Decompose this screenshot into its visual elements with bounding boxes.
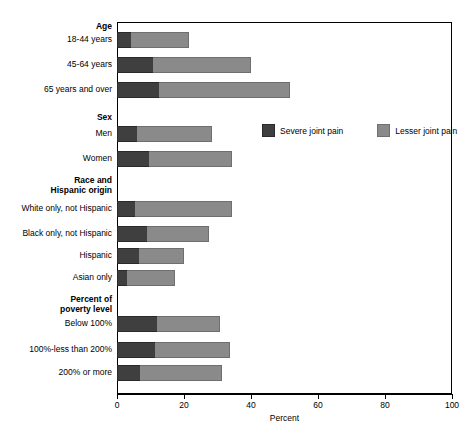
bar-segment-lesser (155, 342, 230, 358)
category-label: Women (0, 154, 112, 164)
x-axis-tick (117, 394, 118, 399)
table-row (117, 270, 175, 286)
legend-item-severe: Severe joint pain (262, 124, 343, 137)
category-label: 45-64 years (0, 60, 112, 70)
category-label: Below 100% (0, 319, 112, 329)
x-axis-tick-label: 20 (169, 400, 199, 410)
bar-segment-severe (117, 248, 139, 264)
category-label: White only, not Hispanic (0, 204, 112, 214)
x-axis-title: Percent (117, 413, 452, 423)
bar-segment-lesser (127, 270, 175, 286)
bar-segment-severe (117, 57, 153, 73)
bar-segment-lesser (159, 82, 290, 98)
x-axis-tick-label: 100 (437, 400, 467, 410)
joint-pain-stacked-bar-chart: Age18-44 years45-64 years65 years and ov… (0, 0, 475, 436)
category-label: Asian only (0, 273, 112, 283)
table-row (117, 201, 232, 217)
category-label: 200% or more (0, 368, 112, 378)
table-row (117, 226, 209, 242)
bar-segment-severe (117, 342, 155, 358)
table-row (117, 82, 290, 98)
category-label: 65 years and over (0, 85, 112, 95)
table-row (117, 316, 220, 332)
category-label: 18-44 years (0, 35, 112, 45)
table-row (117, 342, 230, 358)
bar-segment-severe (117, 365, 140, 381)
bar-segment-severe (117, 32, 131, 48)
chart-legend: Severe joint pain Lesser joint pain (262, 124, 457, 137)
bar-segment-lesser (131, 32, 189, 48)
category-label: Hispanic (0, 251, 112, 261)
bar-segment-severe (117, 151, 149, 167)
x-axis-line (117, 394, 453, 395)
bar-segment-severe (117, 126, 137, 142)
x-axis-tick (452, 394, 453, 399)
table-row (117, 57, 251, 73)
x-axis-tick (251, 394, 252, 399)
group-header-label: Sex (0, 113, 112, 123)
group-header-label: Age (0, 22, 112, 32)
table-row (117, 32, 189, 48)
legend-swatch-lesser-icon (377, 124, 390, 137)
bar-segment-severe (117, 201, 135, 217)
bar-segment-severe (117, 270, 127, 286)
bar-segment-lesser (147, 226, 209, 242)
bar-segment-lesser (149, 151, 232, 167)
x-axis-tick-label: 40 (236, 400, 266, 410)
x-axis-tick-label: 0 (102, 400, 132, 410)
legend-item-lesser: Lesser joint pain (377, 124, 457, 137)
bar-segment-severe (117, 226, 147, 242)
x-axis-tick (184, 394, 185, 399)
legend-label-lesser: Lesser joint pain (395, 126, 457, 136)
category-label: Black only, not Hispanic (0, 229, 112, 239)
x-axis-tick (385, 394, 386, 399)
bar-segment-lesser (135, 201, 232, 217)
x-axis-tick-label: 80 (370, 400, 400, 410)
bar-segment-lesser (153, 57, 251, 73)
bar-segment-lesser (139, 248, 184, 264)
table-row (117, 248, 184, 264)
table-row (117, 151, 232, 167)
bar-segment-severe (117, 316, 157, 332)
table-row (117, 126, 212, 142)
legend-swatch-severe-icon (262, 124, 275, 137)
bar-segment-severe (117, 82, 159, 98)
legend-label-severe: Severe joint pain (280, 126, 343, 136)
category-label: 100%-less than 200% (0, 345, 112, 355)
group-header-label: poverty level (0, 305, 112, 315)
x-axis-tick-label: 60 (303, 400, 333, 410)
table-row (117, 365, 222, 381)
bar-segment-lesser (140, 365, 222, 381)
category-label: Men (0, 129, 112, 139)
group-header-label: Hispanic origin (0, 186, 112, 196)
x-axis-tick (318, 394, 319, 399)
bar-segment-lesser (157, 316, 220, 332)
bar-segment-lesser (137, 126, 212, 142)
